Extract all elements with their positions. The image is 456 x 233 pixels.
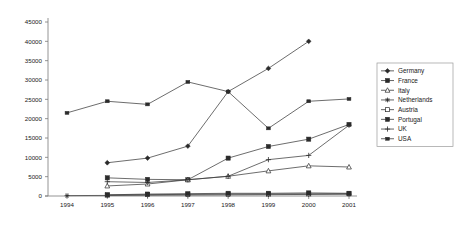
data-point-marker <box>145 192 149 196</box>
series-germany <box>105 39 311 165</box>
series-usa <box>65 80 351 129</box>
series-france <box>105 122 351 181</box>
chart-canvas: 0500010000150002000025000300003500040000… <box>0 0 456 233</box>
legend-label: Italy <box>398 87 411 95</box>
legend-label: Austria <box>398 106 418 113</box>
data-point-marker <box>347 97 351 100</box>
legend-label: France <box>398 77 418 84</box>
series-uk <box>105 123 352 185</box>
legend-label: Netherlands <box>398 96 432 103</box>
legend-label: Germany <box>398 67 425 75</box>
data-point-marker <box>307 100 311 103</box>
y-tick-label: 0 <box>39 192 43 199</box>
legend-label: USA <box>398 135 412 142</box>
y-tick-label: 10000 <box>25 154 43 161</box>
data-point-marker <box>386 137 390 140</box>
legend-label: UK <box>398 125 408 132</box>
data-point-marker <box>226 191 230 195</box>
y-axis-tick-labels: 0500010000150002000025000300003500040000… <box>25 18 43 199</box>
y-tick-label: 40000 <box>25 38 43 45</box>
data-point-marker <box>266 66 271 71</box>
data-point-marker <box>186 80 190 83</box>
data-point-marker <box>266 191 270 195</box>
data-point-marker <box>65 111 69 114</box>
data-point-marker <box>266 144 270 148</box>
data-point-marker <box>306 39 311 44</box>
legend-border <box>377 63 453 147</box>
data-point-marker <box>105 100 109 103</box>
y-axis-tick-marks <box>45 22 48 196</box>
series-line <box>67 82 349 128</box>
x-tick-label: 1996 <box>141 201 155 208</box>
data-point-marker <box>146 103 150 106</box>
data-point-marker <box>226 90 230 93</box>
data-point-marker <box>385 78 389 82</box>
series-layer <box>65 39 352 198</box>
data-point-marker <box>266 157 271 162</box>
data-point-marker <box>186 192 190 196</box>
data-point-marker <box>226 156 230 160</box>
data-point-marker <box>347 191 351 195</box>
x-tick-label: 2001 <box>342 201 356 208</box>
data-point-marker <box>105 160 110 165</box>
y-tick-label: 30000 <box>25 76 43 83</box>
data-point-marker <box>65 193 70 198</box>
x-tick-label: 1994 <box>60 201 74 208</box>
line-chart: 0500010000150002000025000300003500040000… <box>0 0 456 233</box>
y-tick-label: 25000 <box>25 96 43 103</box>
y-tick-label: 20000 <box>25 115 43 122</box>
chart-legend: GermanyFranceItalyNetherlandsAustriaPort… <box>377 63 453 147</box>
data-point-marker <box>105 193 109 197</box>
y-tick-label: 35000 <box>25 57 43 64</box>
data-point-marker <box>385 117 389 121</box>
data-point-marker <box>386 108 390 112</box>
y-tick-label: 45000 <box>25 18 43 25</box>
x-axis-tick-labels: 19941995199619971998199920002001 <box>60 201 356 208</box>
x-tick-label: 1998 <box>221 201 235 208</box>
x-tick-label: 1995 <box>100 201 114 208</box>
data-point-marker <box>385 98 390 103</box>
x-tick-label: 1999 <box>262 201 276 208</box>
y-tick-label: 5000 <box>28 173 42 180</box>
data-point-marker <box>145 156 150 161</box>
data-point-marker <box>307 191 311 195</box>
x-tick-label: 1997 <box>181 201 195 208</box>
legend-label: Portugal <box>398 116 422 124</box>
y-tick-label: 15000 <box>25 134 43 141</box>
data-point-marker <box>307 137 311 141</box>
data-point-marker <box>267 127 271 130</box>
x-tick-label: 2000 <box>302 201 316 208</box>
